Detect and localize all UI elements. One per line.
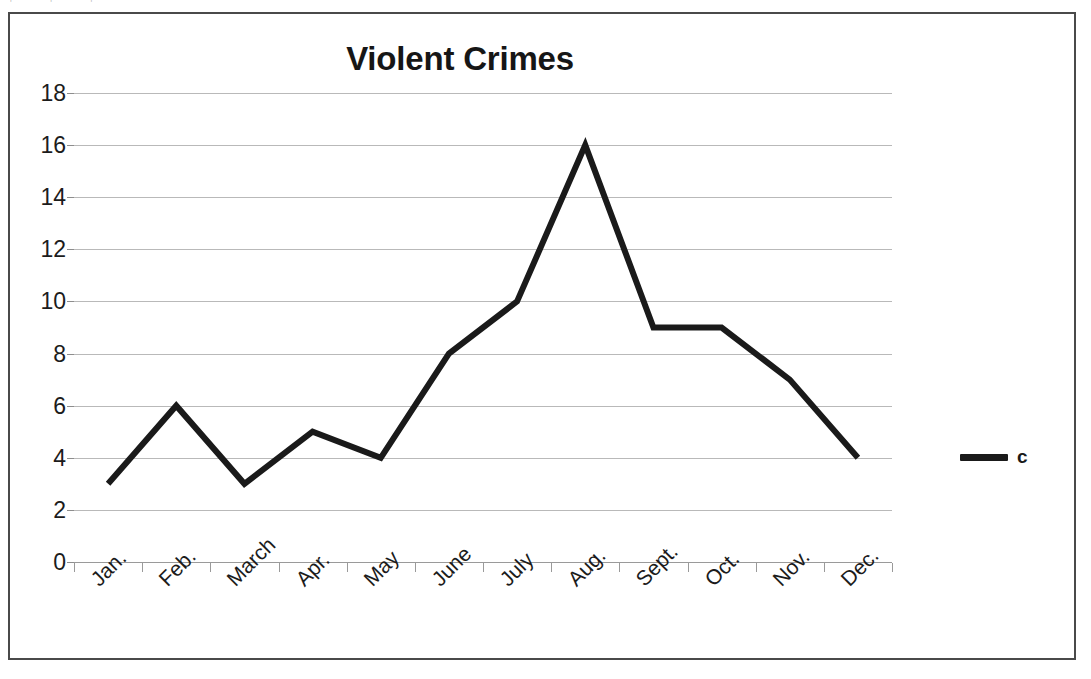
x-axis-tick-mark: [415, 563, 416, 572]
y-axis-tick-mark: [67, 510, 74, 511]
y-axis-tick-label: 14: [22, 184, 66, 211]
y-axis-tick-label: 8: [22, 340, 66, 367]
y-axis-tick-label: 12: [22, 236, 66, 263]
x-axis-tick-mark: [142, 563, 143, 572]
legend-entry-label: c: [1017, 446, 1028, 468]
y-axis-tick-mark: [67, 93, 74, 94]
chart-title: Violent Crimes: [10, 40, 910, 78]
chart-frame: Violent Crimes 181614121086420 Jan.Feb.M…: [8, 12, 1076, 660]
x-axis-tick-mark: [483, 563, 484, 572]
y-axis-tick-label: 2: [22, 496, 66, 523]
y-axis-tick-label: 18: [22, 80, 66, 107]
chart-legend: c: [960, 446, 1028, 468]
x-axis-tick-mark: [688, 563, 689, 572]
x-axis-tick-mark: [279, 563, 280, 572]
x-axis-tick-mark: [892, 563, 893, 572]
y-axis-tick-labels: 181614121086420: [18, 93, 66, 562]
y-axis-tick-mark: [67, 145, 74, 146]
data-series-line: [74, 93, 892, 562]
y-axis-tick-label: 4: [22, 444, 66, 471]
x-axis-tick-mark: [824, 563, 825, 572]
y-axis-tick-label: 16: [22, 132, 66, 159]
x-axis-tick-mark: [347, 563, 348, 572]
legend-line-swatch: [960, 454, 1008, 461]
x-axis-tick-mark: [551, 563, 552, 572]
y-axis-tick-mark: [67, 301, 74, 302]
x-axis-tick-labels: Jan.Feb.MarchApr.MayJuneJulyAug.Sept.Oct…: [74, 574, 892, 654]
x-axis-tick-mark: [756, 563, 757, 572]
y-axis-tick-label: 10: [22, 288, 66, 315]
y-axis-tick-mark: [67, 406, 74, 407]
series-polyline: [108, 145, 858, 484]
y-axis-tick-mark: [67, 562, 74, 563]
x-axis-tick-mark: [619, 563, 620, 572]
y-axis-tick-mark: [67, 249, 74, 250]
x-axis-tick-mark: [74, 563, 75, 572]
x-axis-tick-mark: [210, 563, 211, 572]
y-axis-tick-mark: [67, 197, 74, 198]
y-axis-tick-label: 6: [22, 392, 66, 419]
y-axis-tick-label: 0: [22, 549, 66, 576]
y-axis-tick-mark: [67, 458, 74, 459]
y-axis-tick-mark: [67, 354, 74, 355]
scan-artifact-top-edge: ' ' ': [10, 0, 410, 7]
